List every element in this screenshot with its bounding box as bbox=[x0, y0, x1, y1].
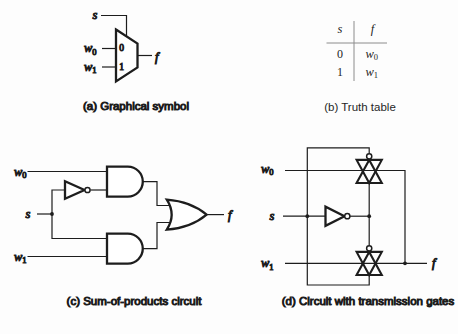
output-junction-dot bbox=[403, 261, 407, 265]
panel-d-transmission-gate-circuit: w0 s w1 f (d) Circuit with transmission … bbox=[261, 148, 455, 307]
tg-bottom-bubble-icon bbox=[367, 246, 372, 251]
table-cell-s0: 0 bbox=[337, 47, 343, 61]
w0-label: w0 bbox=[14, 165, 27, 181]
select-label: s bbox=[26, 207, 31, 221]
table-cell-f0: w0 bbox=[366, 47, 379, 63]
table-cell-f1: w1 bbox=[366, 65, 379, 81]
output-label: f bbox=[155, 50, 160, 64]
select-junction-dot bbox=[305, 214, 309, 218]
select-label: s bbox=[270, 209, 275, 223]
table-header-s: s bbox=[338, 22, 343, 36]
output-label: f bbox=[432, 256, 437, 270]
not-gate bbox=[326, 207, 345, 226]
select-label: s bbox=[93, 8, 98, 22]
multiplexer-figure: s w0 w1 0 1 f (a) Graphical symbol s f 0… bbox=[0, 0, 458, 334]
w1-label: w1 bbox=[14, 250, 27, 266]
table-header-f: f bbox=[371, 22, 376, 36]
not-gate bbox=[65, 181, 85, 199]
mux-port-1: 1 bbox=[119, 62, 124, 72]
caption-b: (b) Truth table bbox=[324, 101, 396, 113]
and-gate-top bbox=[107, 167, 143, 197]
select-branch-up-wire bbox=[52, 190, 65, 214]
transmission-gate-bottom bbox=[357, 246, 382, 275]
mux-port-0: 0 bbox=[119, 43, 124, 53]
panel-b-truth-table: s f 0 w0 1 w1 (b) Truth table bbox=[324, 21, 396, 113]
tg-top-triangle-down-icon bbox=[357, 160, 382, 183]
caption-a: (a) Graphical symbol bbox=[83, 100, 189, 112]
tg-top-bubble-icon bbox=[367, 154, 372, 159]
table-cell-s1: 1 bbox=[337, 65, 343, 79]
panel-a-graphical-symbol: s w0 w1 0 1 f (a) Graphical symbol bbox=[83, 8, 189, 112]
or-gate bbox=[167, 200, 207, 230]
w0-label: w0 bbox=[84, 41, 97, 57]
panel-c-sop-circuit: w0 s w1 f (c) Sum-of-products circuit bbox=[14, 165, 233, 307]
inverter-output-junction-dot bbox=[367, 214, 371, 218]
tg-top-triangle-up-icon bbox=[357, 160, 382, 183]
not-bubble-icon bbox=[85, 187, 90, 192]
caption-c: (c) Sum-of-products circuit bbox=[67, 295, 203, 307]
select-branch-down-wire bbox=[52, 214, 107, 239]
output-label: f bbox=[228, 208, 233, 222]
table-row: 1 w1 bbox=[337, 65, 378, 81]
w1-label: w1 bbox=[261, 256, 274, 272]
caption-d: (d) Circuit with transmission gates bbox=[282, 295, 455, 307]
not-bubble-icon bbox=[345, 214, 350, 219]
figure-canvas: s w0 w1 0 1 f (a) Graphical symbol s f 0… bbox=[0, 0, 458, 334]
select-junction-dot bbox=[50, 212, 54, 216]
w1-label: w1 bbox=[84, 60, 97, 76]
mux-trapezoid bbox=[116, 30, 138, 82]
table-row: 0 w0 bbox=[337, 47, 378, 63]
w0-label: w0 bbox=[261, 162, 274, 178]
and-gate-bottom bbox=[107, 234, 143, 264]
transmission-gate-top bbox=[357, 154, 382, 183]
